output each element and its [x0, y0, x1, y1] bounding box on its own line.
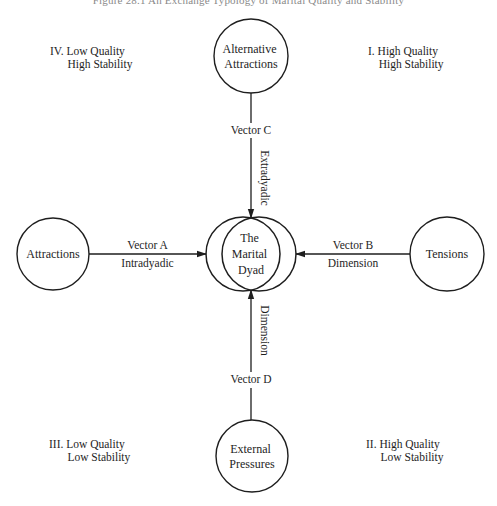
- dyad-label-line: The: [240, 231, 259, 245]
- node-attractions: Attractions: [17, 218, 89, 290]
- vector-sublabel: Dimension: [259, 305, 271, 356]
- vector-a: Vector A Intradyadic: [89, 239, 206, 270]
- svg-text:Alternative Attraction: Alternative Attractions: [223, 42, 280, 71]
- node-alternative-attractions: Alternative Attractions: [214, 19, 288, 93]
- dyad-label-line: Dyad: [238, 263, 264, 277]
- node-label-line: Attractions: [26, 247, 80, 261]
- svg-text:External Pressures: External Pressures: [229, 442, 275, 471]
- node-external-pressures: External Pressures: [216, 420, 288, 492]
- svg-text:Tensions: Tensions: [426, 247, 469, 261]
- vector-sublabel: Intradyadic: [121, 257, 173, 270]
- vector-label: Vector B: [333, 239, 374, 251]
- node-label-line: External: [230, 442, 271, 456]
- vector-sublabel: Extradyadic: [258, 150, 271, 206]
- node-label-line: Attractions: [224, 57, 278, 71]
- node-label-line: Pressures: [229, 457, 275, 471]
- diagram-canvas: Figure 28.1 An Exchange Typology of Mari…: [0, 0, 497, 506]
- node-tensions: Tensions: [410, 217, 484, 291]
- vector-b: Vector B Dimension: [296, 239, 410, 269]
- typology-diagram: Alternative Attractions Attractions Tens…: [0, 0, 497, 506]
- vector-label: Vector C: [231, 124, 272, 136]
- node-label-line: Tensions: [426, 247, 469, 261]
- dyad-label-line: Marital: [232, 247, 268, 261]
- vector-d: Vector D Dimension: [230, 290, 271, 420]
- svg-text:The Marital Dy: The Marital Dyad: [232, 231, 270, 277]
- node-marital-dyad: The Marital Dyad: [206, 217, 296, 291]
- node-label-line: Alternative: [223, 42, 277, 56]
- vector-label: Vector A: [127, 239, 168, 251]
- vector-label: Vector D: [230, 373, 271, 385]
- vector-c: Vector C Extradyadic: [231, 93, 272, 218]
- vector-sublabel: Dimension: [328, 257, 379, 269]
- svg-text:Attractions: Attractions: [26, 247, 80, 261]
